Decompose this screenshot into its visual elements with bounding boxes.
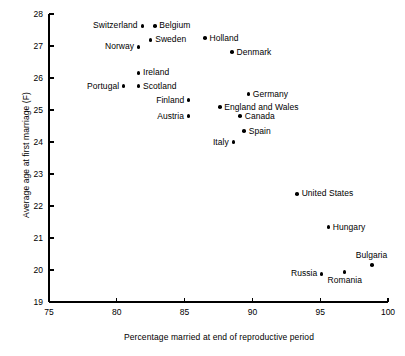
y-tick-label-26: 26 [27, 74, 43, 83]
x-tick-label-90: 90 [240, 308, 264, 317]
y-tick-label-19: 19 [27, 298, 43, 307]
plot-axes [0, 0, 405, 356]
point-label-sweden: Sweden [155, 35, 186, 44]
data-point-spain [242, 129, 246, 133]
point-label-austria: Austria [157, 112, 184, 121]
point-label-canada: Canada [245, 112, 275, 121]
x-axis-title: Percentage married at end of reproductiv… [49, 332, 389, 342]
data-point-romania [343, 270, 347, 274]
point-label-russia: Russia [291, 269, 317, 278]
point-label-italy: Italy [213, 138, 229, 147]
y-tick-label-25: 25 [27, 106, 43, 115]
data-point-austria [187, 114, 191, 118]
data-point-germany [247, 92, 251, 96]
y-tick-label-28: 28 [27, 10, 43, 19]
data-point-sweden [149, 38, 153, 42]
point-label-switzerland: Switzerland [93, 21, 138, 30]
data-point-belgium [153, 24, 157, 28]
data-point-russia [320, 272, 324, 276]
x-tick-label-85: 85 [173, 308, 197, 317]
y-tick-label-21: 21 [27, 234, 43, 243]
data-point-hungary [327, 225, 331, 229]
point-label-united-states: United States [302, 189, 354, 198]
data-point-denmark [230, 50, 234, 54]
data-point-canada [238, 114, 242, 118]
point-label-hungary: Hungary [333, 223, 365, 232]
x-tick-label-95: 95 [308, 308, 332, 317]
x-tick-label-100: 100 [376, 308, 400, 317]
data-point-england-and-wales [218, 105, 222, 109]
y-tick-label-27: 27 [27, 42, 43, 51]
point-label-ireland: Ireland [143, 68, 169, 77]
data-point-italy [232, 140, 236, 144]
x-tick-label-75: 75 [37, 308, 61, 317]
y-tick-label-22: 22 [27, 202, 43, 211]
x-tick-label-80: 80 [105, 308, 129, 317]
point-label-spain: Spain [249, 127, 271, 136]
point-label-finland: Finland [156, 96, 184, 105]
data-point-united-states [295, 192, 299, 196]
data-point-finland [187, 98, 191, 102]
point-label-portugal: Portugal [87, 82, 119, 91]
point-label-germany: Germany [253, 90, 288, 99]
data-point-norway [137, 45, 141, 49]
point-label-romania: Romania [328, 276, 362, 285]
y-tick-label-20: 20 [27, 266, 43, 275]
data-point-scotland [137, 84, 141, 88]
data-point-switzerland [141, 24, 145, 28]
point-label-holland: Holland [209, 34, 238, 43]
point-label-belgium: Belgium [159, 21, 190, 30]
point-label-scotland: Scotland [143, 82, 176, 91]
data-point-portugal [122, 84, 126, 88]
y-tick-label-24: 24 [27, 138, 43, 147]
y-tick-label-23: 23 [27, 170, 43, 179]
scatter-plot-figure: Average age at first marriage (F) Percen… [0, 0, 405, 356]
point-label-bulgaria: Bulgaria [356, 251, 388, 260]
data-point-ireland [137, 71, 141, 75]
point-label-denmark: Denmark [237, 48, 272, 57]
data-point-holland [203, 36, 207, 40]
point-label-norway: Norway [105, 42, 134, 51]
data-point-bulgaria [370, 263, 374, 267]
